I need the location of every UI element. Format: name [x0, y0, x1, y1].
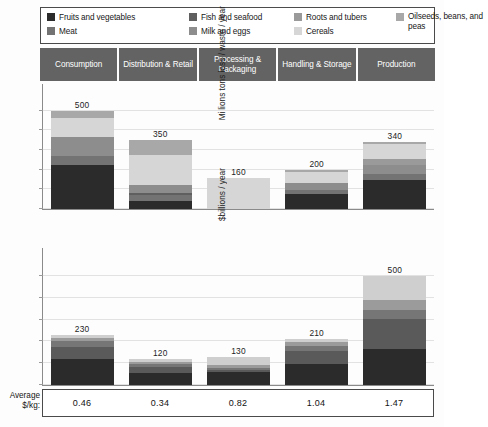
bar-segment: [51, 359, 114, 385]
legend-swatch-icon: [294, 27, 302, 35]
bar-segment: [285, 172, 348, 183]
stacked-bar[interactable]: [51, 335, 114, 385]
bar-segment: [363, 319, 426, 349]
bar-column[interactable]: 500: [43, 84, 121, 209]
legend-item: Milk and eggs: [189, 26, 294, 37]
bar-value-label: 500: [43, 100, 121, 110]
legend-item: Oilseeds, beans, and peas: [396, 12, 488, 32]
bar-segment: [363, 165, 426, 174]
bar-segment: [207, 372, 270, 385]
bar-segment: [285, 183, 348, 190]
stacked-bar[interactable]: [129, 359, 192, 385]
bar-value-label: 210: [278, 328, 356, 338]
stacked-bar[interactable]: [285, 170, 348, 209]
stage-header-cell-4: Handling & Storage: [278, 48, 355, 81]
average-price-cell-4: 1.04: [277, 390, 355, 416]
stacked-bar[interactable]: [363, 276, 426, 385]
chart-legend: Fruits and vegetablesFish and seafoodRoo…: [40, 7, 435, 44]
stacked-bar[interactable]: [285, 339, 348, 385]
bar-column[interactable]: 210: [278, 248, 356, 385]
bar-segment: [363, 300, 426, 310]
legend-item: Meat: [47, 26, 189, 37]
legend-swatch-icon: [47, 27, 55, 35]
stage-header-cell-5: Production: [358, 48, 435, 81]
tonnage-bar-chart: 500350160200340: [42, 84, 434, 210]
bar-value-label: 340: [356, 131, 434, 141]
bar-segment: [51, 118, 114, 138]
bar-segment: [363, 276, 426, 300]
tonnage-plot-area: 500350160200340: [43, 84, 434, 209]
average-price-cell-5: 1.47: [355, 390, 433, 416]
bar-column[interactable]: 350: [121, 84, 199, 209]
legend-swatch-icon: [189, 27, 197, 35]
bottom-chart-y-axis-title: $billions / year: [217, 168, 227, 221]
bar-segment: [363, 144, 426, 159]
bar-value-label: 160: [199, 167, 277, 177]
legend-item: Fish and seafood: [189, 12, 294, 23]
bar-value-label: 200: [278, 159, 356, 169]
legend-swatch-icon: [396, 13, 404, 21]
bar-segment: [51, 137, 114, 156]
average-price-cell-1: 0.46: [43, 390, 121, 416]
stacked-bar[interactable]: [363, 142, 426, 209]
bar-segment: [129, 140, 192, 154]
bar-segment: [129, 185, 192, 193]
legend-swatch-icon: [47, 13, 55, 21]
bar-column[interactable]: 200: [278, 84, 356, 209]
bar-group: 230120130210500: [43, 248, 434, 385]
bar-value-label: 230: [43, 324, 121, 334]
legend-item-label: Cereals: [306, 26, 334, 37]
average-price-label: Average $/kg:: [2, 391, 40, 410]
bar-column[interactable]: 120: [121, 248, 199, 385]
bar-segment: [285, 364, 348, 385]
bar-segment: [285, 351, 348, 365]
bar-group: 500350160200340: [43, 84, 434, 209]
legend-item-label: Roots and tubers: [306, 12, 367, 23]
average-price-cell-3: 0.82: [199, 390, 277, 416]
average-price-row: 0.460.340.821.041.47: [42, 389, 434, 417]
average-price-cell-2: 0.34: [121, 390, 199, 416]
bar-segment: [51, 347, 114, 359]
value-bar-chart: 230120130210500: [42, 248, 434, 386]
legend-swatch-icon: [294, 13, 302, 21]
bar-segment: [129, 201, 192, 209]
bar-segment: [51, 156, 114, 165]
legend-item: Fruits and vegetables: [47, 12, 189, 23]
bar-segment: [363, 310, 426, 319]
average-price-label-line1: Average: [2, 391, 40, 401]
bar-segment: [363, 349, 426, 385]
bar-value-label: 130: [199, 346, 277, 356]
legend-grid: Fruits and vegetablesFish and seafoodRoo…: [47, 12, 428, 40]
legend-item: Cereals: [294, 26, 396, 37]
bar-segment: [129, 373, 192, 385]
average-price-label-line2: $/kg:: [2, 401, 40, 411]
bar-value-label: 120: [121, 348, 199, 358]
stage-header-cell-2: Distribution & Retail: [119, 48, 196, 81]
stacked-bar[interactable]: [207, 357, 270, 385]
bar-column[interactable]: 230: [43, 248, 121, 385]
bar-column[interactable]: 160: [199, 84, 277, 209]
stage-header-cell-3: Processing & Packaging: [199, 48, 276, 81]
supply-chain-stage-header: ConsumptionDistribution & RetailProcessi…: [40, 48, 435, 81]
bar-segment: [285, 194, 348, 209]
bar-value-label: 350: [121, 129, 199, 139]
stacked-bar[interactable]: [51, 111, 114, 209]
stacked-bar[interactable]: [129, 140, 192, 209]
stage-header-cell-1: Consumption: [40, 48, 117, 81]
bar-value-label: 500: [356, 265, 434, 275]
legend-item-label: Meat: [59, 26, 77, 37]
bar-segment: [51, 165, 114, 209]
bar-segment: [129, 155, 192, 185]
bar-column[interactable]: 340: [356, 84, 434, 209]
legend-item: Roots and tubers: [294, 12, 396, 23]
bar-segment: [51, 111, 114, 118]
bar-column[interactable]: 500: [356, 248, 434, 385]
bar-segment: [363, 180, 426, 209]
legend-swatch-icon: [189, 13, 197, 21]
bar-column[interactable]: 130: [199, 248, 277, 385]
legend-item-label: Fruits and vegetables: [59, 12, 135, 23]
legend-item-label: Fish and seafood: [201, 12, 262, 23]
legend-item-label: Oilseeds, beans, and peas: [408, 12, 488, 32]
value-plot-area: 230120130210500: [43, 248, 434, 385]
